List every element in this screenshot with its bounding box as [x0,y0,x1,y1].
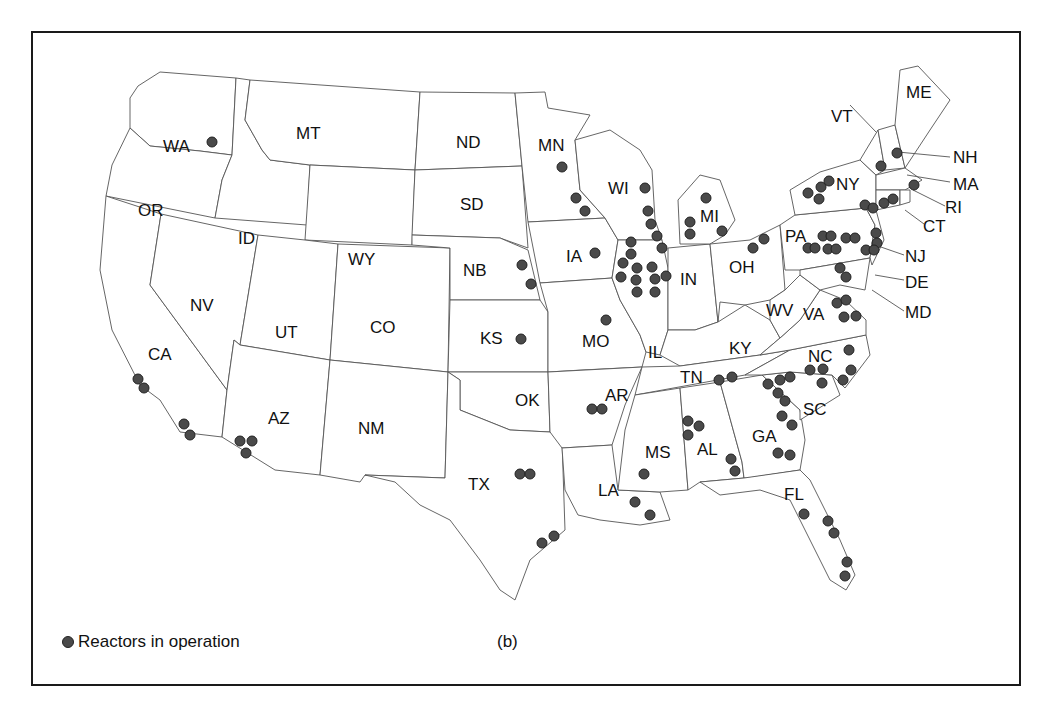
state-label-il: IL [648,343,662,362]
state-label-nb: NB [463,261,487,280]
state-label-ky: KY [729,339,752,358]
reactor-marker-ca [185,430,195,440]
reactor-marker-ga [787,420,797,430]
reactor-marker-ct [879,198,889,208]
state-label-la: LA [598,481,619,500]
reactor-marker-ga [773,448,783,458]
reactor-marker-il [626,237,636,247]
reactor-marker-ga [785,450,795,460]
reactor-marker-fl [829,528,839,538]
figure-caption: (b) [497,632,518,652]
reactor-marker-ms [639,469,649,479]
state-label-tn: TN [680,368,703,387]
reactor-marker-ny [824,176,834,186]
state-az [222,340,330,475]
state-ri [900,190,910,205]
reactor-marker-wi [640,183,650,193]
reactor-marker-tx [525,469,535,479]
reactor-marker-sc [780,396,790,406]
state-label-co: CO [370,318,396,337]
reactor-marker-il [626,249,636,259]
reactor-marker-il [632,263,642,273]
state-label-tx: TX [468,475,490,494]
reactor-marker-tn [727,372,737,382]
reactor-marker-il [616,272,626,282]
state-wy [305,165,415,245]
reactor-marker-fl [799,509,809,519]
state-label-ri: RI [945,198,962,217]
reactor-marker-nc [838,375,848,385]
reactor-marker-ny [803,188,813,198]
reactor-marker-fl [823,516,833,526]
state-label-ia: IA [566,247,583,266]
state-nd [415,92,522,170]
reactor-marker-ks [516,334,526,344]
legend-label: Reactors in operation [78,632,240,652]
reactor-marker-al [730,466,740,476]
state-label-wv: WV [766,301,794,320]
reactor-marker-ca [133,374,143,384]
leader-line-vt [850,105,876,132]
state-label-id: ID [238,229,255,248]
state-label-in: IN [680,270,697,289]
state-label-or: OR [138,201,164,220]
reactor-marker-tn [714,375,724,385]
reactor-marker-pa [810,243,820,253]
reactor-marker-il [632,287,642,297]
leader-line-ct [905,210,924,224]
state-label-fl: FL [784,485,804,504]
reactor-marker-ga [777,411,787,421]
reactor-marker-il [647,262,657,272]
reactor-marker-il [657,243,667,253]
reactor-marker-mi [685,217,695,227]
state-label-ca: CA [148,345,172,364]
state-label-wy: WY [348,250,375,269]
reactor-marker-fl [842,557,852,567]
reactor-marker-ca [179,419,189,429]
legend: Reactors in operation [62,632,240,652]
state-label-pa: PA [785,227,807,246]
reactor-marker-vt [876,161,886,171]
state-label-ar: AR [605,386,629,405]
reactor-marker-mn [571,193,581,203]
state-label-vt: VT [831,107,853,126]
state-label-ny: NY [836,175,860,194]
state-label-nm: NM [358,419,384,438]
reactor-marker-nb [526,279,536,289]
state-label-nh: NH [953,148,978,167]
reactor-marker-wa [207,137,217,147]
reactor-marker-ca [139,383,149,393]
reactor-marker-ar [597,404,607,414]
reactor-marker-nj [869,245,879,255]
state-label-nd: ND [456,133,481,152]
leader-line-md [872,290,904,311]
state-boundaries [100,66,950,600]
reactor-marker-pa [831,244,841,254]
leader-line-nj [878,246,904,255]
reactor-marker-wi [646,219,656,229]
reactor-marker-ar [587,404,597,414]
state-label-ma: MA [953,175,979,194]
reactor-marker-az [241,448,251,458]
reactor-marker-nc [844,345,854,355]
state-label-mo: MO [582,332,609,351]
reactor-marker-tx [549,531,559,541]
reactor-marker-il [631,275,641,285]
state-label-wa: WA [163,137,190,156]
reactor-marker-tx [537,538,547,548]
state-label-me: ME [906,83,932,102]
reactor-marker-nb [517,260,527,270]
leader-line-de [875,275,904,280]
reactor-marker-il [650,274,660,284]
state-label-al: AL [697,440,718,459]
reactor-marker-pa [826,231,836,241]
reactor-marker-il [650,287,660,297]
reactor-marker-nc [818,364,828,374]
state-label-ut: UT [275,323,298,342]
state-label-ct: CT [923,217,946,236]
reactor-marker-va [841,295,851,305]
state-label-sc: SC [803,400,827,419]
state-label-ms: MS [645,443,671,462]
state-label-de: DE [905,273,929,292]
reactor-marker-al [683,416,693,426]
